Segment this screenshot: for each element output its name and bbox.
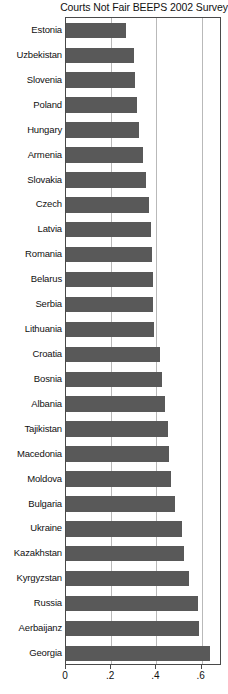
x-tick-mark [110, 665, 111, 669]
bar-row [66, 93, 220, 118]
category-label: Estonia [0, 24, 62, 35]
category-label: Croatia [0, 348, 62, 359]
category-label: Kazakhstan [0, 547, 62, 558]
bar-row [66, 367, 220, 392]
chart-container: Courts Not Fair BEEPS 2002 Survey Estoni… [0, 0, 228, 694]
category-label: Bosnia [0, 373, 62, 384]
bar [66, 272, 153, 288]
bar-row [66, 342, 220, 367]
x-axis: 0.2.4.6 [65, 665, 221, 693]
x-tick-label: .4 [151, 670, 159, 682]
plot-area [65, 17, 221, 665]
bar [66, 446, 169, 462]
category-label: Ukraine [0, 522, 62, 533]
bar [66, 172, 146, 188]
category-axis-labels: EstoniaUzbekistanSloveniaPolandHungaryAr… [0, 17, 62, 665]
x-tick-label: .6 [196, 670, 204, 682]
category-label: Bulgaria [0, 498, 62, 509]
x-tick-mark [201, 665, 202, 669]
category-label: Macedonia [0, 448, 62, 459]
bar-row [66, 18, 220, 43]
bar-row [66, 242, 220, 267]
bar [66, 297, 153, 313]
bar-row [66, 641, 220, 665]
bar-row [66, 217, 220, 242]
category-label: Hungary [0, 124, 62, 135]
bar [66, 372, 162, 388]
bar-row [66, 118, 220, 143]
bar-row [66, 68, 220, 93]
category-label: Romania [0, 248, 62, 259]
x-tick-label: 0 [62, 670, 68, 682]
bar-row [66, 392, 220, 417]
category-label: Poland [0, 99, 62, 110]
chart-title: Courts Not Fair BEEPS 2002 Survey [60, 1, 228, 14]
category-label: Slovenia [0, 74, 62, 85]
bar [66, 621, 199, 637]
bar [66, 421, 168, 437]
category-label: Georgia [0, 647, 62, 658]
category-label: Russia [0, 597, 62, 608]
bar [66, 197, 149, 213]
bar-row [66, 442, 220, 467]
bar-row [66, 168, 220, 193]
category-label: Albania [0, 398, 62, 409]
bar-row [66, 566, 220, 591]
bar [66, 496, 175, 512]
bar [66, 546, 184, 562]
bar-row [66, 292, 220, 317]
bar [66, 48, 134, 64]
bar [66, 646, 210, 662]
bar-series [66, 18, 220, 664]
bar-row [66, 591, 220, 616]
bar-row [66, 192, 220, 217]
bar-row [66, 516, 220, 541]
bar-row [66, 417, 220, 442]
bar [66, 122, 139, 138]
category-label: Slovakia [0, 174, 62, 185]
bar [66, 596, 198, 612]
bar-row [66, 541, 220, 566]
bar [66, 396, 165, 412]
bar [66, 23, 126, 39]
x-tick-mark [65, 665, 66, 669]
category-label: Lithuania [0, 323, 62, 334]
bar [66, 347, 160, 363]
category-label: Moldova [0, 473, 62, 484]
category-label: Belarus [0, 273, 62, 284]
category-label: Latvia [0, 223, 62, 234]
bar [66, 521, 182, 537]
bar [66, 247, 152, 263]
category-label: Aerbaijanz [0, 622, 62, 633]
category-label: Serbia [0, 298, 62, 309]
category-label: Kyrgyzstan [0, 572, 62, 583]
bar-row [66, 43, 220, 68]
bar [66, 97, 137, 113]
bar-row [66, 143, 220, 168]
bar [66, 571, 189, 587]
bar [66, 322, 154, 338]
x-tick-label: .2 [106, 670, 114, 682]
bar [66, 72, 135, 88]
category-label: Tajikistan [0, 423, 62, 434]
category-label: Armenia [0, 149, 62, 160]
x-tick-mark [155, 665, 156, 669]
bar-row [66, 267, 220, 292]
bar-row [66, 467, 220, 492]
category-label: Uzbekistan [0, 49, 62, 60]
bar-row [66, 492, 220, 517]
bar-row [66, 317, 220, 342]
bar [66, 222, 151, 238]
bar [66, 471, 171, 487]
bar-row [66, 616, 220, 641]
bar [66, 147, 143, 163]
category-label: Czech [0, 198, 62, 209]
